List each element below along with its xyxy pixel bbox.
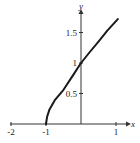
y-axis-label: y bbox=[78, 1, 83, 11]
y-tick-label: 1 bbox=[73, 58, 78, 68]
ticks: -2-110.511.5 bbox=[7, 28, 118, 138]
x-tick-label: -1 bbox=[42, 127, 50, 137]
y-tick-label: 0.5 bbox=[66, 89, 78, 99]
x-tick-label: -2 bbox=[7, 127, 15, 137]
x-axis-label: x bbox=[130, 119, 135, 129]
data-curve bbox=[46, 19, 118, 124]
chart-plot: -2-110.511.5 x y bbox=[0, 0, 140, 143]
y-tick-label: 1.5 bbox=[66, 28, 78, 38]
x-tick-label: 1 bbox=[114, 127, 119, 137]
